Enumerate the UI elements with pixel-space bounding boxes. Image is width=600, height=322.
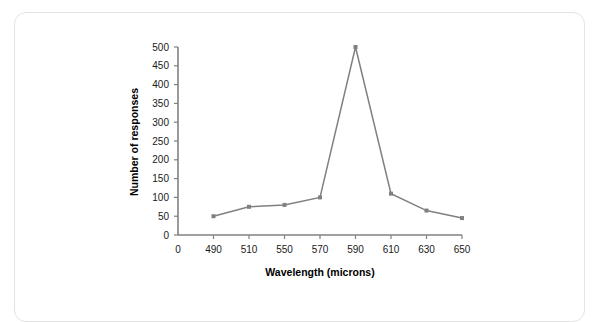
- x-axis-tick-label: 550: [276, 244, 293, 255]
- data-point-marker: [318, 195, 322, 199]
- data-series-line: [214, 47, 463, 218]
- x-axis-tick-label: 590: [347, 244, 364, 255]
- y-axis-tick-label: 500: [152, 42, 169, 53]
- y-axis-tick-label: 450: [152, 60, 169, 71]
- y-axis-tick-label: 0: [163, 230, 169, 241]
- y-axis-tick-label: 250: [152, 136, 169, 147]
- x-axis-title: Wavelength (microns): [265, 266, 374, 278]
- data-point-marker: [460, 216, 464, 220]
- y-axis-tick-label: 100: [152, 192, 169, 203]
- data-point-group: [212, 45, 465, 220]
- y-axis-tick-group: 050100150200250300350400450500: [152, 42, 178, 241]
- data-point-marker: [354, 45, 358, 49]
- x-axis-tick-label: 650: [454, 244, 471, 255]
- data-point-marker: [389, 192, 393, 196]
- x-axis-tick-label: 0: [175, 244, 181, 255]
- x-axis-tick-label: 610: [383, 244, 400, 255]
- y-axis-tick-label: 350: [152, 98, 169, 109]
- y-axis-tick-label: 150: [152, 173, 169, 184]
- x-axis-tick-label: 490: [205, 244, 222, 255]
- data-point-marker: [212, 214, 216, 218]
- x-axis-tick-label: 630: [418, 244, 435, 255]
- y-axis-tick-label: 400: [152, 79, 169, 90]
- x-axis-tick-label: 510: [241, 244, 258, 255]
- data-point-marker: [247, 205, 251, 209]
- y-axis-tick-label: 50: [158, 211, 170, 222]
- y-axis-title: Number of responses: [128, 88, 140, 196]
- y-axis-tick-label: 300: [152, 117, 169, 128]
- y-axis-tick-label: 200: [152, 154, 169, 165]
- x-axis-tick-label: 570: [312, 244, 329, 255]
- data-point-marker: [283, 203, 287, 207]
- x-axis-tick-group: 0490510550570590610630650: [175, 235, 471, 255]
- data-point-marker: [425, 209, 429, 213]
